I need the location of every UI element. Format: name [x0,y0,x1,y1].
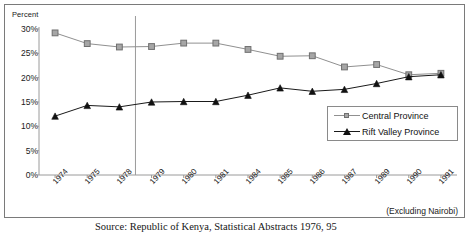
chart-footnote: (Excluding Nairobi) [386,206,458,216]
legend-item-rift-valley: Rift Valley Province [334,124,439,140]
legend-label-central: Central Province [362,111,429,121]
legend-marker-triangle-icon [334,126,360,138]
legend-marker-square-icon [334,110,360,122]
chart-legend: Central Province Rift Valley Province [327,106,458,141]
legend-item-central: Central Province [334,108,429,124]
legend-label-rift-valley: Rift Valley Province [362,127,439,137]
source-citation: Source: Republic of Kenya, Statistical A… [95,221,337,232]
chart-figure: Percent 30%25%20%15%10%5%0% 197419751978… [0,0,472,232]
